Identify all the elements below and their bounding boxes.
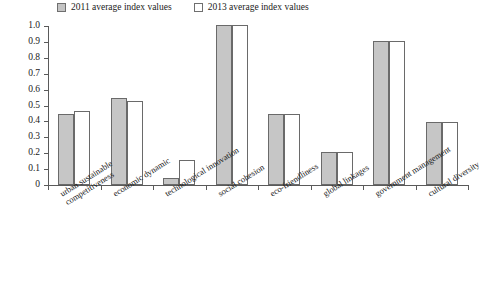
x-axis-tick — [363, 185, 364, 190]
y-axis-tick-label: 0.6 — [28, 84, 40, 95]
x-axis-tick — [206, 185, 207, 190]
x-axis-tick — [48, 185, 49, 190]
y-axis-tick: 0.9 — [44, 42, 49, 43]
bar-2013 — [232, 25, 248, 185]
y-axis-tick-label: 0.4 — [28, 115, 40, 126]
y-axis-tick-label: 0 — [35, 179, 40, 190]
y-axis-tick: 0.8 — [44, 58, 49, 59]
y-axis-tick: 0.2 — [44, 153, 49, 154]
legend-entry-2011: 2011 average index values — [57, 3, 172, 13]
y-axis-tick-label: 0.1 — [28, 163, 40, 174]
y-axis-tick-label: 0.9 — [28, 36, 40, 47]
chart-legend: 2011 average index values 2013 average i… — [57, 3, 309, 13]
y-axis-tick-label: 0.2 — [28, 147, 40, 158]
x-axis-tick — [258, 185, 259, 190]
legend-label-2013: 2013 average index values — [208, 3, 309, 13]
legend-swatch-white-outlined-square-icon — [194, 3, 203, 12]
y-axis-tick-label: 1.0 — [28, 20, 40, 31]
y-axis-tick-label: 0.5 — [28, 100, 40, 111]
chart-page: 2011 average index values 2013 average i… — [0, 0, 488, 286]
y-axis-tick: 0.1 — [44, 169, 49, 170]
bar-2011 — [268, 114, 284, 185]
y-axis-tick: 0.3 — [44, 137, 49, 138]
bar-2011 — [58, 114, 74, 185]
x-axis-tick — [468, 185, 469, 190]
x-axis-tick — [311, 185, 312, 190]
bar-2011 — [373, 41, 389, 185]
y-axis-tick: 0.7 — [44, 74, 49, 75]
y-axis-tick: 0.4 — [44, 121, 49, 122]
y-axis-tick: 0.5 — [44, 106, 49, 107]
y-axis-tick: 1.0 — [44, 26, 49, 27]
y-axis-tick-label: 0.3 — [28, 131, 40, 142]
bar-2013 — [389, 41, 405, 185]
y-axis-tick-label: 0.7 — [28, 68, 40, 79]
legend-label-2011: 2011 average index values — [71, 3, 172, 13]
y-axis-tick-label: 0.8 — [28, 52, 40, 63]
legend-entry-2013: 2013 average index values — [194, 3, 309, 13]
legend-swatch-gray-filled-square-icon — [57, 3, 66, 12]
y-axis-tick: 0.6 — [44, 90, 49, 91]
x-axis-tick — [153, 185, 154, 190]
x-axis-tick — [416, 185, 417, 190]
